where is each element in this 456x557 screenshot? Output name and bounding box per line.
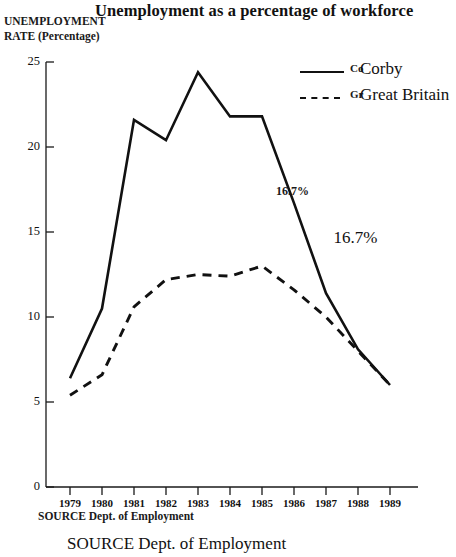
data-annotation-16-7-percent-large: 16.7%	[334, 228, 378, 248]
legend-label-corby: Corby	[360, 59, 403, 79]
legend-label-great-britain: Great Britain	[360, 85, 449, 105]
x-axis-ticks	[70, 487, 390, 495]
y-axis-tick-label: 15	[14, 225, 40, 237]
source-note-large: SOURCE Dept. of Employment	[67, 534, 286, 554]
source-note-small: SOURCE Dept. of Employment	[38, 510, 194, 522]
data-annotation-16-7-percent-small: 16.7%	[276, 184, 309, 199]
y-axis-tick-label: 20	[14, 140, 40, 152]
y-axis-tick-label: 10	[14, 310, 40, 322]
legend-swatch-dashed-line-icon	[300, 97, 340, 99]
y-axis-ticks	[46, 62, 54, 487]
y-axis-tick-label: 25	[14, 55, 40, 67]
legend-swatch-solid-line-icon	[300, 71, 344, 73]
chart-canvas: Unemployment as a percentage of workforc…	[0, 0, 456, 557]
y-axis-tick-label: 0	[14, 480, 40, 492]
series-line-great-britain	[70, 266, 390, 395]
y-axis-tick-label: 5	[14, 395, 40, 407]
plot-area	[0, 0, 456, 557]
x-axis-tick-label: 1989	[370, 497, 410, 509]
